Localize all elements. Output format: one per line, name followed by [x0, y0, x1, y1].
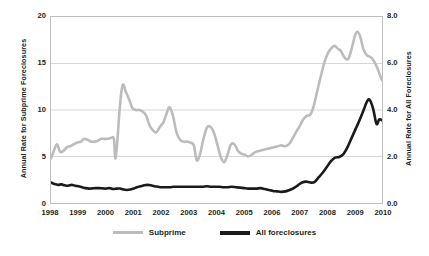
- x-tick-label: 2001: [118, 208, 148, 217]
- plot-svg: [51, 17, 382, 203]
- x-tick-label: 2008: [313, 208, 343, 217]
- left-tick-label: 20: [20, 11, 46, 20]
- right-tick-label: 0.0: [387, 199, 413, 208]
- legend-label-all-foreclosures: All foreclosures: [256, 228, 316, 237]
- x-tick-label: 2000: [91, 208, 121, 217]
- series-line-subprime: [51, 32, 382, 162]
- x-tick-label: 2003: [174, 208, 204, 217]
- x-tick-label: 2006: [257, 208, 287, 217]
- left-tick-label: 5: [20, 152, 46, 161]
- right-tick-label: 8.0: [387, 11, 413, 20]
- right-tick-label: 4.0: [387, 105, 413, 114]
- x-tick-label: 2005: [229, 208, 259, 217]
- x-tick-label: 2010: [368, 208, 398, 217]
- legend-item-all-foreclosures: All foreclosures: [220, 228, 316, 237]
- right-tick-label: 2.0: [387, 152, 413, 161]
- plot-area: [50, 16, 383, 204]
- chart-legend: Subprime All foreclosures: [0, 228, 429, 237]
- right-tick-label: 6.0: [387, 58, 413, 67]
- x-tick-label: 2007: [285, 208, 315, 217]
- x-tick-label: 2004: [202, 208, 232, 217]
- legend-item-subprime: Subprime: [113, 228, 186, 237]
- x-tick-label: 1998: [35, 208, 65, 217]
- left-tick-label: 0: [20, 199, 46, 208]
- left-tick-label: 15: [20, 58, 46, 67]
- x-tick-label: 2002: [146, 208, 176, 217]
- x-tick-label: 2009: [340, 208, 370, 217]
- left-tick-label: 10: [20, 105, 46, 114]
- x-tick-label: 1999: [63, 208, 93, 217]
- legend-swatch-subprime: [113, 231, 143, 234]
- legend-swatch-all-foreclosures: [220, 231, 250, 235]
- legend-label-subprime: Subprime: [149, 228, 186, 237]
- foreclosure-rate-chart: Annual Rate for Subprime Foreclosures An…: [0, 0, 429, 256]
